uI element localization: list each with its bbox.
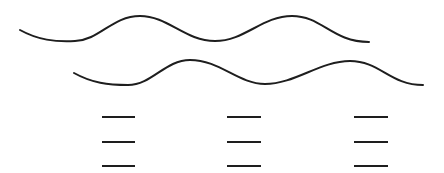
dash-column-1	[102, 117, 135, 166]
diagram-canvas	[0, 0, 444, 173]
wave-dash-drawing	[0, 0, 444, 173]
dash-column-2	[227, 117, 261, 166]
top-wave-line	[20, 16, 369, 42]
dash-column-3	[354, 117, 388, 166]
dash-columns	[102, 117, 388, 166]
bottom-wave-line	[74, 60, 423, 85]
